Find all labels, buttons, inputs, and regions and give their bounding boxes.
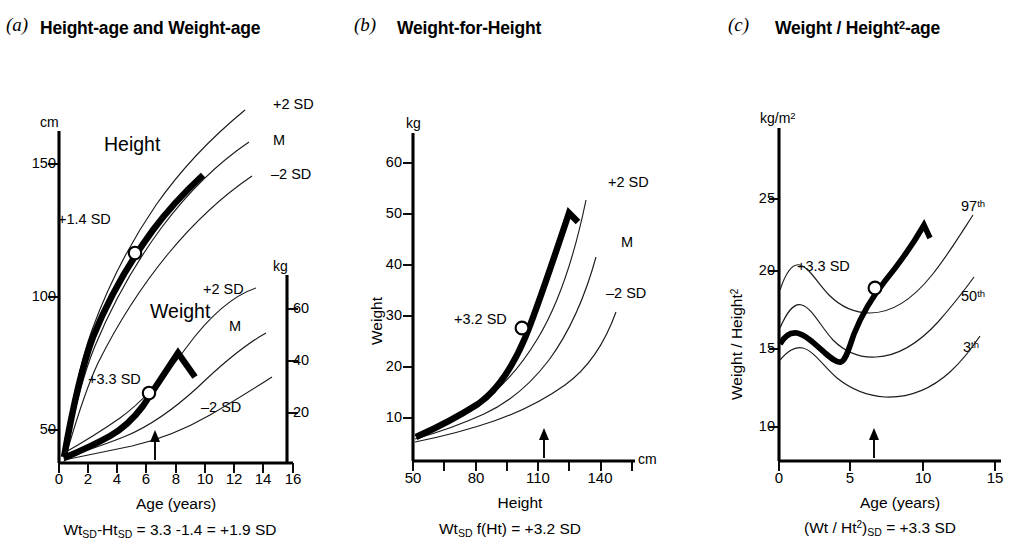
panel-b-xtick-110: 110 bbox=[520, 469, 556, 486]
panel-b-patient-marker[interactable] bbox=[516, 322, 529, 335]
panel-c-xtick-5: 5 bbox=[836, 469, 864, 486]
panel-a-assessment-age-arrow bbox=[150, 430, 160, 460]
panel-a-plot-area bbox=[0, 0, 340, 550]
panel-a-xtick-4: 4 bbox=[103, 470, 131, 487]
panel-a-xtick-2: 2 bbox=[74, 470, 102, 487]
panel-a-x-axis-title: Age (years) bbox=[106, 495, 246, 513]
panel-c-weight-height2-age: (c) Weight / Height2-age kg/m2 25 20 15 … bbox=[680, 0, 1024, 550]
panel-c-plot-area bbox=[680, 0, 1024, 550]
panel-b-x-axis-title: Height bbox=[460, 494, 580, 512]
panel-b-xtick-50: 50 bbox=[399, 469, 427, 486]
panel-a-weight-curve-median bbox=[64, 333, 266, 458]
panel-a-xtick-16: 16 bbox=[279, 470, 307, 487]
panel-b-y-axis-title: Weight bbox=[368, 297, 386, 345]
panel-c-x-axis-title: Age (years) bbox=[830, 494, 970, 512]
panel-a-xtick-10: 10 bbox=[191, 470, 219, 487]
panel-a-height-curve-plus2sd bbox=[64, 110, 245, 455]
panel-c-assessment-age-arrow bbox=[869, 428, 879, 458]
panel-a-height-curve-median bbox=[64, 142, 249, 459]
panel-b-weight-for-height: (b) Weight-for-Height kg cm 60 50 40 30 … bbox=[340, 0, 680, 550]
panel-c-patient-marker[interactable] bbox=[869, 282, 882, 295]
panel-c-y-axis-title: Weight / Height2 bbox=[728, 289, 746, 400]
panel-c-formula: (Wt / Ht2)SD = +3.3 SD bbox=[740, 519, 1020, 538]
panel-b-curve-median bbox=[415, 257, 596, 439]
panel-b-xtick-140: 140 bbox=[582, 469, 618, 486]
panel-c-curve-3th bbox=[780, 336, 980, 397]
panel-b-patient-curve bbox=[416, 213, 578, 437]
panel-a-xtick-8: 8 bbox=[162, 470, 190, 487]
panel-a-height-patient-marker[interactable] bbox=[129, 247, 141, 259]
panel-c-xtick-15: 15 bbox=[977, 469, 1013, 486]
panel-a-formula: WtSD-HtSD = 3.3 -1.4 = +1.9 SD bbox=[20, 521, 320, 540]
panel-a-xtick-6: 6 bbox=[132, 470, 160, 487]
panel-c-xtick-10: 10 bbox=[905, 469, 941, 486]
panel-b-plot-area bbox=[340, 0, 680, 550]
panel-a-height-age-weight-age: (a) Height-age and Weight-age cm kg 150 … bbox=[0, 0, 340, 550]
panel-a-weight-curve-plus2sd bbox=[64, 288, 256, 453]
panel-c-patient-curve bbox=[780, 225, 930, 362]
panel-b-formula: WtSD f(Ht) = +3.2 SD bbox=[370, 520, 650, 539]
panel-c-curve-97th bbox=[780, 215, 973, 313]
panel-a-xtick-0: 0 bbox=[45, 470, 73, 487]
panel-a-weight-patient-marker[interactable] bbox=[143, 387, 155, 399]
panel-a-xtick-12: 12 bbox=[220, 470, 248, 487]
panel-a-xtick-14: 14 bbox=[249, 470, 277, 487]
growth-chart-figure: (a) Height-age and Weight-age cm kg 150 … bbox=[0, 0, 1024, 550]
panel-b-xtick-80: 80 bbox=[462, 469, 490, 486]
panel-b-assessment-height-arrow bbox=[539, 428, 549, 458]
panel-c-xtick-0: 0 bbox=[765, 469, 793, 486]
